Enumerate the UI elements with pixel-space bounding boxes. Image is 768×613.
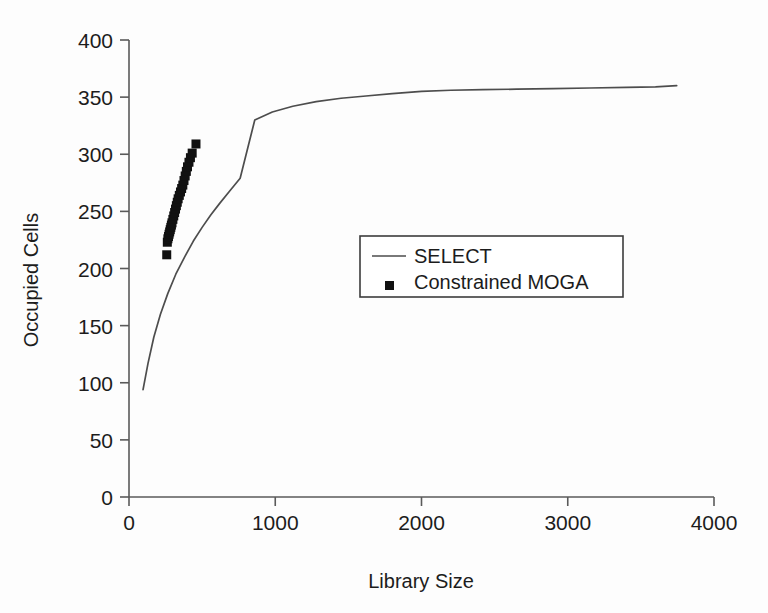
y-tick-label-0: 0 [101, 486, 113, 509]
y-tick-label-100: 100 [78, 372, 113, 395]
y-tick-label-350: 350 [78, 86, 113, 109]
y-axis-title: Occupied Cells [20, 213, 42, 348]
legend-square-swatch [385, 281, 394, 290]
x-tick-label-3000: 3000 [544, 511, 591, 534]
chart-container: 050100150200250300350400 010002000300040… [0, 0, 768, 613]
x-tick-label-0: 0 [123, 511, 135, 534]
y-tick-label-250: 250 [78, 200, 113, 223]
x-tick-label-4000: 4000 [691, 511, 738, 534]
x-axis-ticks [129, 497, 714, 506]
chart-svg: 050100150200250300350400 010002000300040… [0, 0, 768, 613]
y-axis-ticks [120, 40, 129, 497]
y-tick-label-400: 400 [78, 29, 113, 52]
y-axis-tick-labels: 050100150200250300350400 [78, 29, 113, 509]
data-point [162, 250, 171, 259]
y-tick-label-200: 200 [78, 258, 113, 281]
legend: SELECT Constrained MOGA [360, 236, 623, 297]
data-point [191, 139, 200, 148]
x-tick-label-1000: 1000 [252, 511, 299, 534]
legend-label-select: SELECT [414, 245, 492, 267]
series-points-constrained-moga [162, 139, 200, 259]
y-tick-label-150: 150 [78, 315, 113, 338]
x-tick-label-2000: 2000 [398, 511, 445, 534]
data-point [188, 149, 197, 158]
x-axis-title: Library Size [368, 570, 474, 592]
y-tick-label-300: 300 [78, 143, 113, 166]
x-axis-tick-labels: 01000200030004000 [123, 511, 737, 534]
legend-label-constrained-moga: Constrained MOGA [414, 271, 589, 293]
y-tick-label-50: 50 [90, 429, 113, 452]
